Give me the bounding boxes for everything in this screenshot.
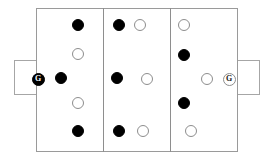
pitch-diagram: GG: [0, 0, 267, 159]
token-dark-center-bottom[interactable]: [113, 125, 125, 137]
token-light-right-mid[interactable]: [201, 73, 213, 85]
token-light-right-bottom[interactable]: [185, 125, 197, 137]
token-light-center-mid[interactable]: [141, 73, 153, 85]
token-dark-center-mid[interactable]: [111, 72, 123, 84]
token-dark-right-upper-mid[interactable]: [178, 49, 190, 61]
token-light-left-lower-mid[interactable]: [72, 97, 84, 109]
token-light-right-top[interactable]: [178, 19, 190, 31]
token-dark-right-lower-mid[interactable]: [178, 97, 190, 109]
token-light-center-top[interactable]: [134, 19, 146, 31]
third-line-right: [170, 8, 171, 152]
token-light-left-upper-mid[interactable]: [72, 48, 84, 60]
token-dark-left-bottom[interactable]: [72, 125, 84, 137]
goalkeeper-right[interactable]: G: [223, 73, 236, 86]
token-dark-left-mid[interactable]: [55, 72, 67, 84]
token-label: G: [35, 75, 41, 83]
token-light-center-bottom[interactable]: [137, 125, 149, 137]
token-label: G: [226, 75, 232, 83]
token-dark-center-top[interactable]: [113, 19, 125, 31]
goal-box-right: [238, 60, 260, 95]
third-line-left: [103, 8, 104, 152]
token-dark-left-top[interactable]: [72, 19, 84, 31]
goalkeeper-left[interactable]: G: [32, 73, 45, 86]
